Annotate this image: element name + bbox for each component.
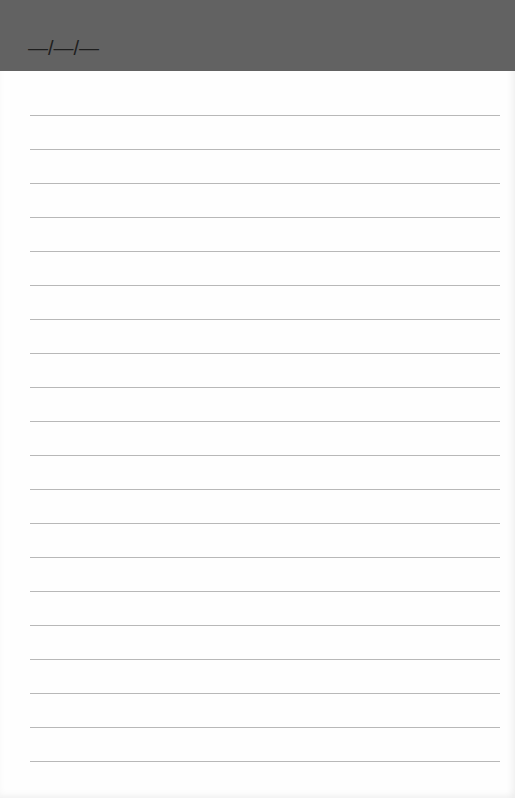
ruled-line [30,251,500,252]
ruled-line [30,761,500,762]
ruled-line [30,523,500,524]
ruled-line [30,115,500,116]
ruled-line [30,319,500,320]
ruled-line [30,387,500,388]
ruled-line [30,557,500,558]
ruled-line [30,659,500,660]
ruled-line [30,455,500,456]
ruled-line [30,285,500,286]
ruled-line [30,727,500,728]
ruled-line [30,183,500,184]
ruled-lines [30,0,500,798]
ruled-line [30,591,500,592]
ruled-line [30,353,500,354]
ruled-line [30,625,500,626]
ruled-line [30,421,500,422]
ruled-line [30,693,500,694]
ruled-line [30,489,500,490]
ruled-line [30,217,500,218]
notepad-page: —/—/— [0,0,515,798]
ruled-line [30,149,500,150]
